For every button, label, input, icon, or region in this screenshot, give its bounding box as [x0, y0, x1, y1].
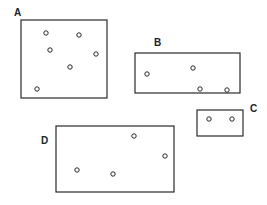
point-marker	[75, 168, 79, 172]
region-box	[135, 53, 240, 93]
point-marker	[35, 87, 39, 91]
region-a: A	[14, 7, 107, 98]
region-label: B	[154, 37, 161, 48]
point-marker	[145, 72, 149, 76]
point-marker	[48, 48, 52, 52]
point-marker	[132, 134, 136, 138]
region-label: A	[14, 7, 21, 18]
region-label: D	[41, 135, 48, 146]
point-marker	[207, 117, 211, 121]
point-marker	[191, 66, 195, 70]
point-marker	[198, 87, 202, 91]
region-box	[197, 110, 243, 136]
point-marker	[77, 33, 81, 37]
point-marker	[230, 117, 234, 121]
region-b: B	[135, 37, 240, 93]
region-box	[21, 20, 107, 98]
region-d: D	[41, 126, 174, 192]
region-box	[56, 126, 174, 192]
region-label: C	[250, 103, 257, 114]
point-marker	[225, 88, 229, 92]
region-diagram: ABCD	[0, 0, 267, 205]
point-marker	[44, 31, 48, 35]
point-marker	[94, 52, 98, 56]
point-marker	[111, 172, 115, 176]
region-c: C	[197, 103, 257, 136]
point-marker	[68, 65, 72, 69]
point-marker	[163, 154, 167, 158]
